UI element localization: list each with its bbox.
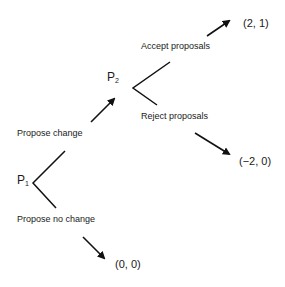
node-p2-subscript: 2 <box>115 77 119 84</box>
accept-arrow <box>207 21 229 36</box>
payoff-reject: (−2, 0) <box>239 156 271 167</box>
reject-arrow <box>195 133 229 154</box>
propose-change-arrow <box>91 99 114 122</box>
node-p1-subscript: 1 <box>25 180 29 187</box>
p1-branch-lines <box>33 151 65 208</box>
node-p2: P2 <box>107 71 119 84</box>
label-accept-proposals: Accept proposals <box>141 42 210 51</box>
label-propose-no-change: Propose no change <box>17 215 95 224</box>
label-propose-change: Propose change <box>17 129 83 138</box>
node-p1-player: P <box>17 173 25 187</box>
no-change-arrow <box>83 237 104 258</box>
node-p2-player: P <box>107 70 115 84</box>
label-reject-proposals: Reject proposals <box>141 112 208 121</box>
payoff-no-change: (0, 0) <box>115 259 141 270</box>
node-p1: P1 <box>17 174 29 187</box>
p2-branch-lines <box>133 62 170 105</box>
payoff-accept: (2, 1) <box>243 18 269 29</box>
